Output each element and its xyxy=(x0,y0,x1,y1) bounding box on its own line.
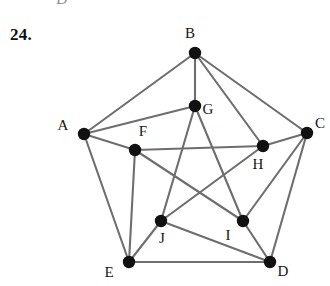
graph-node-F xyxy=(129,144,141,156)
graph-edge-CD xyxy=(270,133,307,262)
graph-edge-DJ xyxy=(161,221,270,262)
graph-edge-CH xyxy=(263,133,307,146)
graph-edge-AB xyxy=(84,53,195,134)
graph-node-E xyxy=(123,256,135,268)
graph-edge-AF xyxy=(84,134,135,150)
graph-node-B xyxy=(189,47,201,59)
graph-edge-EA xyxy=(84,134,129,262)
graph-edge-EJ xyxy=(129,221,161,262)
graph-node-J xyxy=(155,215,167,227)
graph-node-D xyxy=(264,256,276,268)
graph-node-G xyxy=(189,100,201,112)
edge-layer xyxy=(84,53,307,262)
graph-node-label-J: J xyxy=(159,230,165,246)
graph-edge-HJ xyxy=(161,146,263,221)
graph-node-label-E: E xyxy=(104,264,113,280)
graph-node-label-D: D xyxy=(278,263,289,279)
graph-node-label-I: I xyxy=(226,227,231,243)
graph-node-H xyxy=(257,140,269,152)
graph-edge-GI xyxy=(195,106,243,221)
label-layer: ABCDEFGHIJ xyxy=(58,25,325,280)
graph-node-label-C: C xyxy=(315,115,325,131)
graph-edge-FH xyxy=(135,146,263,150)
graph-node-label-G: G xyxy=(203,101,214,117)
graph-node-label-F: F xyxy=(139,123,147,139)
graph-edge-IF xyxy=(135,150,243,221)
graph-node-label-A: A xyxy=(58,117,69,133)
graph-node-C xyxy=(301,127,313,139)
graph-diagram: ABCDEFGHIJ xyxy=(0,0,330,286)
figure-page: D 24. ABCDEFGHIJ xyxy=(0,0,330,286)
graph-edge-EF xyxy=(129,150,135,262)
graph-edge-BC xyxy=(195,53,307,133)
graph-node-A xyxy=(78,128,90,140)
graph-node-label-H: H xyxy=(253,156,264,172)
graph-node-I xyxy=(237,215,249,227)
graph-node-label-B: B xyxy=(185,25,195,41)
graph-edge-JG xyxy=(161,106,195,221)
